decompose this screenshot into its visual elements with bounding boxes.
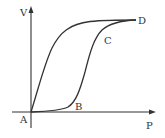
point-label-b: B (75, 101, 82, 112)
point-label-a: A (19, 114, 28, 125)
p-axis-label: P (146, 120, 153, 131)
pv-diagram: V P A B C D (0, 0, 165, 138)
p-axis-arrow-icon (149, 110, 156, 115)
lower-curve (31, 20, 136, 112)
upper-curve (31, 20, 136, 112)
point-label-d: D (138, 15, 146, 26)
v-axis-label: V (19, 7, 28, 18)
v-axis-arrow-icon (29, 6, 34, 13)
point-label-c: C (104, 35, 112, 46)
